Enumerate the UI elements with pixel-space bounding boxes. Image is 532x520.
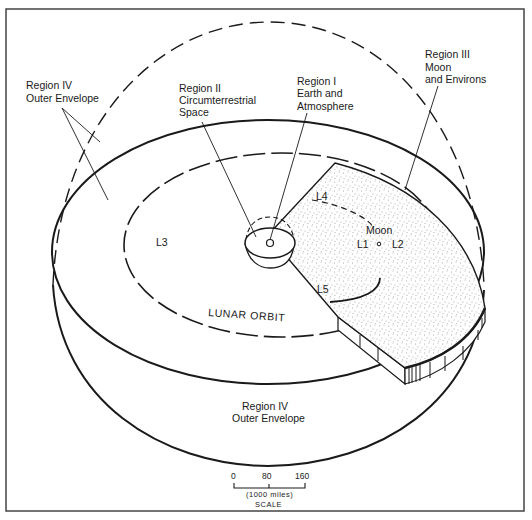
moon-marker (377, 242, 381, 246)
region-iv-bottom-label-1: Region IV (242, 400, 288, 412)
region-iv-top-label-1: Region IV (26, 79, 72, 91)
svg-text:Region II: Region II (179, 82, 221, 94)
l5-label: L5 (317, 283, 329, 295)
svg-text:Space: Space (179, 106, 209, 118)
l2-label: L2 (392, 238, 404, 250)
svg-text:and Environs: and Environs (425, 73, 486, 85)
l3-label: L3 (156, 236, 168, 248)
region-ii-label-1: Region II (179, 82, 221, 94)
region-iii-label-3: and Environs (425, 73, 486, 85)
svg-text:Moon: Moon (425, 61, 451, 73)
svg-text:Outer Envelope: Outer Envelope (232, 412, 305, 424)
region-ii-label-2: Circumterrestrial (179, 94, 256, 106)
leader-region-iv-a (62, 108, 100, 142)
scale-bar: 0 80 160 (1000 miles) SCALE (231, 471, 309, 509)
region-iii-label-2: Moon (425, 61, 451, 73)
scale-title: SCALE (255, 500, 282, 509)
earth-marker (267, 240, 274, 247)
region-ii-label-3: Space (179, 106, 209, 118)
leader-region-iii (405, 86, 438, 190)
svg-text:Atmosphere: Atmosphere (297, 100, 354, 112)
moon-label: Moon (366, 224, 392, 236)
diagram-canvas: Region IV Outer Envelope Region II Circu… (0, 0, 532, 520)
l4-label: L4 (316, 190, 328, 202)
leader-region-ii (202, 122, 256, 237)
region-i-label-2: Earth and (297, 87, 343, 99)
svg-text:Region IV: Region IV (26, 79, 72, 91)
region-iii-label-1: Region III (425, 48, 470, 60)
svg-text:Earth and: Earth and (297, 87, 343, 99)
svg-text:Region IV: Region IV (242, 400, 288, 412)
l1-label: L1 (357, 238, 369, 250)
svg-text:Region I: Region I (297, 75, 336, 87)
svg-text:Region III: Region III (425, 48, 470, 60)
scale-unit: (1000 miles) (246, 490, 293, 499)
region-i-label-3: Atmosphere (297, 100, 354, 112)
region-iv-bottom-label-2: Outer Envelope (232, 412, 305, 424)
scale-tick-160: 160 (295, 471, 309, 481)
scale-tick-0: 0 (231, 471, 236, 481)
region-iii-wedge (268, 163, 485, 384)
lunar-orbit-label: LUNAR ORBIT (208, 306, 286, 323)
region-i-label-1: Region I (297, 75, 336, 87)
svg-text:Outer Envelope: Outer Envelope (26, 92, 99, 104)
scale-tick-80: 80 (262, 471, 272, 481)
region-iv-top-label-2: Outer Envelope (26, 92, 99, 104)
svg-text:Circumterrestrial: Circumterrestrial (179, 94, 256, 106)
